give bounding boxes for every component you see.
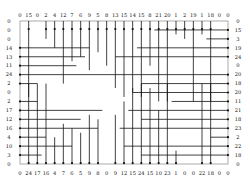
endpoint-dot <box>114 28 116 30</box>
endpoint-dot <box>19 145 21 147</box>
top-labels: 01502412769581315141582120121911800 <box>18 12 229 18</box>
left-label: 0 <box>7 161 10 167</box>
top-label: 15 <box>138 12 145 18</box>
endpoint-dot <box>97 28 99 30</box>
bottom-label: 12 <box>121 170 128 176</box>
endpoint-dot <box>106 28 108 30</box>
left-label: 14 <box>6 45 13 51</box>
top-label: 0 <box>218 12 221 18</box>
right-label: 0 <box>236 62 239 68</box>
left-label: 4 <box>7 134 11 140</box>
endpoint-dot <box>19 154 21 156</box>
bottom-label: 4 <box>53 170 57 176</box>
endpoint-dot <box>19 100 21 102</box>
top-label: 1 <box>200 12 203 18</box>
endpoint-dot <box>140 162 142 164</box>
top-label: 8 <box>105 12 108 18</box>
top-label: 19 <box>190 12 197 18</box>
top-label: 6 <box>79 12 82 18</box>
bottom-label: 8 <box>96 170 99 176</box>
left-label: 3 <box>7 152 10 158</box>
endpoint-dot <box>132 162 134 164</box>
endpoint-dot <box>45 162 47 164</box>
endpoint-dot <box>166 162 168 164</box>
endpoint-dot <box>97 162 99 164</box>
right-label: 23 <box>235 125 242 131</box>
bottom-label: 7 <box>62 170 65 176</box>
top-label: 2 <box>183 12 186 18</box>
bottom-label: 15 <box>147 170 154 176</box>
endpoint-dot <box>175 28 177 30</box>
top-label: 20 <box>164 12 171 18</box>
endpoint-dot <box>227 145 229 147</box>
right-label: 0 <box>236 18 239 24</box>
puzzle-board: 01502412769581315141582120121911800 0241… <box>0 0 250 190</box>
left-label: 11 <box>6 62 13 68</box>
top-label: 4 <box>53 12 57 18</box>
endpoint-dot <box>210 28 212 30</box>
right-label: 2 <box>236 134 239 140</box>
endpoint-dot <box>140 28 142 30</box>
endpoint-dot <box>158 28 160 30</box>
endpoint-dot <box>227 127 229 129</box>
endpoint-dot <box>54 28 56 30</box>
right-label: 20 <box>235 71 242 77</box>
top-label: 0 <box>18 12 21 18</box>
endpoint-dot <box>71 28 73 30</box>
endpoint-dot <box>166 28 168 30</box>
endpoint-dot <box>175 162 177 164</box>
right-label: 24 <box>235 54 242 60</box>
right-label: 18 <box>235 80 242 86</box>
endpoint-dot <box>19 136 21 138</box>
top-label: 8 <box>148 12 151 18</box>
endpoint-dot <box>192 28 194 30</box>
left-label: 0 <box>7 89 10 95</box>
endpoint-dot <box>88 28 90 30</box>
left-label: 0 <box>7 27 10 33</box>
right-label: 15 <box>235 27 242 33</box>
bottom-label: 0 <box>18 170 21 176</box>
endpoint-dot <box>201 28 203 30</box>
left-label: 24 <box>6 71 13 77</box>
endpoint-dot <box>19 127 21 129</box>
endpoint-dot <box>19 56 21 58</box>
left-label: 10 <box>6 143 13 149</box>
wire-lines <box>20 21 228 164</box>
top-label: 21 <box>155 12 162 18</box>
endpoint-dot <box>28 162 30 164</box>
endpoint-dot <box>114 162 116 164</box>
endpoint-dot <box>19 65 21 67</box>
endpoint-dot <box>19 47 21 49</box>
top-label: 18 <box>207 12 214 18</box>
endpoint-dot <box>149 28 151 30</box>
right-label: 18 <box>235 152 242 158</box>
left-label: 13 <box>6 54 13 60</box>
top-label: 7 <box>70 12 73 18</box>
endpoint-dot <box>227 118 229 120</box>
bottom-label: 0 <box>226 170 229 176</box>
endpoint-dot <box>62 28 64 30</box>
bottom-labels: 024171647659809121524151023100221800 <box>18 170 229 176</box>
top-label: 9 <box>88 12 91 18</box>
bottom-label: 23 <box>164 170 171 176</box>
endpoint-dot <box>227 38 229 40</box>
top-label: 0 <box>36 12 39 18</box>
endpoint-dot <box>80 28 82 30</box>
endpoint-dot <box>62 162 64 164</box>
endpoint-dot <box>227 136 229 138</box>
endpoint-dot <box>210 162 212 164</box>
top-label: 15 <box>121 12 128 18</box>
right-labels: 01531924020182011211823222180 <box>235 18 242 167</box>
top-label: 2 <box>44 12 47 18</box>
top-label: 15 <box>25 12 32 18</box>
endpoint-dot <box>227 91 229 93</box>
endpoint-dot <box>227 154 229 156</box>
endpoint-dot <box>19 118 21 120</box>
left-label: 2 <box>7 80 10 86</box>
left-labels: 0001413112420217121641030 <box>6 18 13 167</box>
bottom-label: 22 <box>199 170 206 176</box>
right-label: 0 <box>236 161 239 167</box>
bottom-label: 1 <box>174 170 177 176</box>
right-label: 21 <box>235 107 242 113</box>
endpoint-dot <box>227 109 229 111</box>
